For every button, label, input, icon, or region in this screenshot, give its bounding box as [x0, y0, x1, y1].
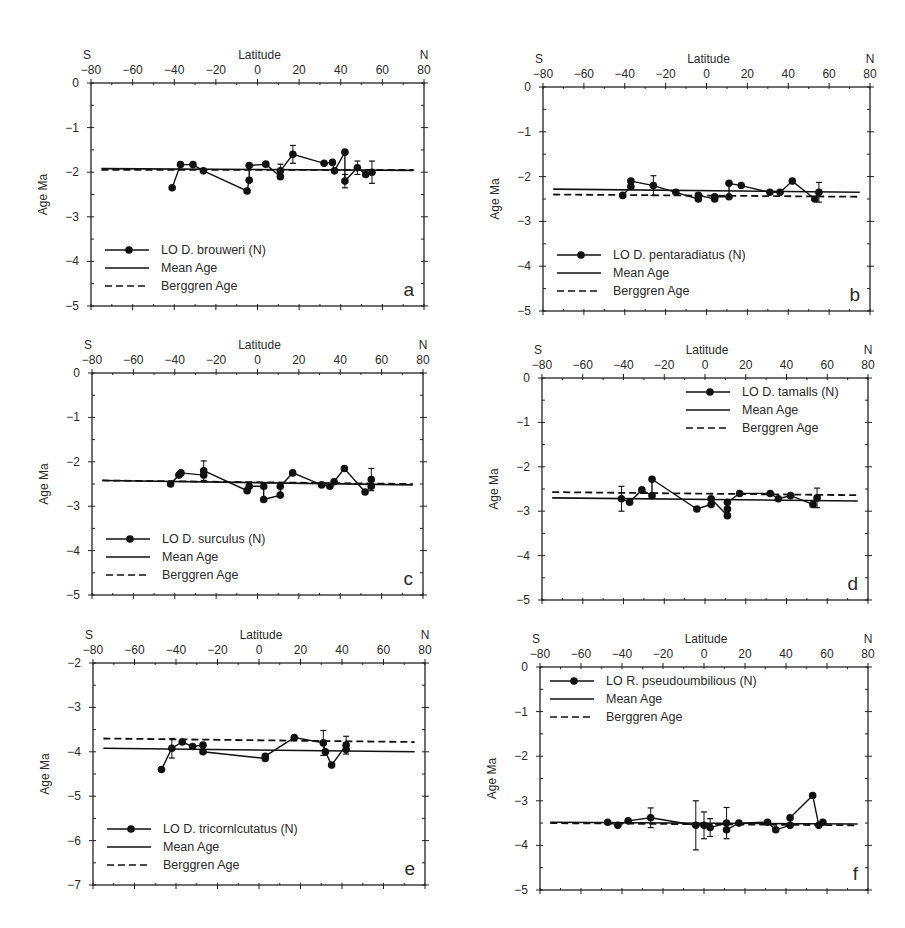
- x-tick-label: −60: [122, 63, 143, 77]
- chart-svg: −80−60−40−20020406080SNLatitude0−1−2−3−4…: [468, 37, 905, 331]
- data-point-marker: [789, 177, 797, 185]
- x-tick-label: 40: [782, 67, 796, 81]
- x-tick-label: −60: [124, 643, 145, 657]
- panel-letter: d: [847, 573, 858, 594]
- legend-label: Berggren Age: [742, 421, 818, 435]
- north-label: N: [864, 343, 873, 357]
- x-tick-label: −40: [612, 647, 633, 661]
- data-point-marker: [725, 180, 733, 188]
- x-tick-label: 0: [703, 67, 710, 81]
- y-tick-label: −1: [516, 415, 530, 429]
- south-label: S: [534, 343, 542, 357]
- chart-panel-d: −80−60−40−20020406080SNLatitude0−1−2−3−4…: [467, 328, 903, 624]
- data-point-marker: [341, 148, 349, 156]
- data-point-marker: [177, 161, 185, 169]
- chart-panel-a: −80−60−40−20020406080SNLatitude0−1−2−3−4…: [16, 33, 459, 330]
- x-tick-label: −80: [532, 358, 553, 372]
- legend-label: Berggren Age: [161, 279, 237, 293]
- x-tick-label: 60: [376, 63, 390, 77]
- data-point-marker: [329, 159, 337, 167]
- data-point-marker: [177, 469, 185, 477]
- data-point-marker: [245, 176, 253, 184]
- x-tick-label: 80: [417, 63, 431, 77]
- data-point-marker: [245, 162, 253, 170]
- x-tick-label: −40: [166, 643, 187, 657]
- legend: LO R. pseudoumbilious (N)Mean AgeBerggre…: [550, 674, 757, 724]
- cut-off-header-text: [110, 0, 310, 4]
- plot-frame: [542, 378, 868, 600]
- x-tick-label: 80: [861, 358, 875, 372]
- chart-panel-f: −80−60−40−20020406080SNLatitude0−1−2−3−4…: [465, 617, 903, 914]
- y-tick-label: −2: [66, 455, 80, 469]
- legend-label: LO D. tricornlcutatus (N): [163, 822, 298, 836]
- data-point-marker: [786, 814, 794, 822]
- plot-frame: [540, 667, 868, 890]
- y-tick-label: −4: [65, 254, 79, 268]
- y-tick-label: −1: [65, 121, 79, 135]
- x-tick-label: −80: [533, 67, 554, 81]
- x-tick-label: −20: [655, 67, 676, 81]
- data-point-marker: [328, 761, 336, 769]
- y-axis-title: Age Ma: [38, 753, 52, 795]
- data-point-marker: [711, 193, 719, 201]
- north-label: N: [866, 52, 875, 66]
- y-axis-title: Age Ma: [36, 173, 50, 215]
- x-tick-label: 0: [256, 643, 263, 657]
- data-point-marker: [650, 182, 658, 190]
- legend-label: Berggren Age: [606, 710, 682, 724]
- legend-label: LO D. tamalls (N): [742, 385, 839, 399]
- x-axis-title: Latitude: [240, 628, 283, 642]
- data-point-marker: [260, 496, 268, 504]
- x-tick-label: 60: [820, 647, 834, 661]
- panel-letter: e: [404, 858, 415, 879]
- berggren-age-line: [552, 492, 858, 495]
- x-tick-label: 60: [377, 643, 391, 657]
- chart-panel-c: −80−60−40−20020406080SNLatitude0−1−2−3−4…: [17, 323, 458, 619]
- y-tick-label: −6: [67, 834, 81, 848]
- data-point-marker: [367, 476, 375, 484]
- legend-label: Mean Age: [606, 692, 662, 706]
- data-series-line: [162, 738, 347, 770]
- data-point-marker: [168, 184, 176, 192]
- legend-label: LO D. brouweri (N): [161, 243, 266, 257]
- x-tick-label: −20: [206, 353, 227, 367]
- north-label: N: [419, 338, 428, 352]
- data-point-marker: [289, 151, 297, 159]
- y-tick-label: −2: [65, 165, 79, 179]
- x-axis-title: Latitude: [685, 632, 728, 646]
- y-tick-label: −2: [516, 460, 530, 474]
- legend-label: LO R. pseudoumbilious (N): [606, 674, 757, 688]
- x-tick-label: 40: [779, 647, 793, 661]
- y-tick-label: 0: [524, 80, 531, 94]
- data-point-marker: [723, 826, 731, 834]
- x-tick-label: 80: [861, 647, 875, 661]
- berggren-age-line: [103, 738, 414, 742]
- data-point-marker: [772, 826, 780, 834]
- legend-label: LO D. pentaradiatus (N): [613, 248, 746, 262]
- south-label: S: [535, 52, 543, 66]
- chart-svg: −80−60−40−20020406080SNLatitude0−1−2−3−4…: [16, 33, 459, 326]
- chart-svg: −80−60−40−20020406080SNLatitude0−1−2−3−4…: [17, 323, 458, 615]
- y-tick-label: −4: [516, 549, 530, 563]
- x-tick-label: 20: [738, 647, 752, 661]
- north-label: N: [421, 628, 430, 642]
- south-label: S: [532, 632, 540, 646]
- plot-frame: [91, 83, 424, 306]
- y-tick-label: −7: [67, 878, 81, 892]
- legend-label: Mean Age: [163, 840, 219, 854]
- north-label: N: [420, 48, 429, 62]
- south-label: S: [85, 628, 93, 642]
- data-point-marker: [245, 482, 253, 490]
- x-tick-label: −40: [164, 63, 185, 77]
- data-point-marker: [289, 469, 297, 477]
- y-tick-label: −2: [514, 749, 528, 763]
- y-axis-title: Age Ma: [488, 178, 502, 220]
- legend-marker-icon: [127, 825, 135, 833]
- x-axis-title: Latitude: [238, 338, 281, 352]
- data-point-marker: [276, 491, 284, 499]
- y-tick-label: −1: [517, 125, 531, 139]
- data-point-marker: [724, 505, 732, 513]
- plot-frame: [93, 663, 425, 885]
- x-tick-label: 80: [418, 643, 432, 657]
- x-axis-title: Latitude: [238, 48, 281, 62]
